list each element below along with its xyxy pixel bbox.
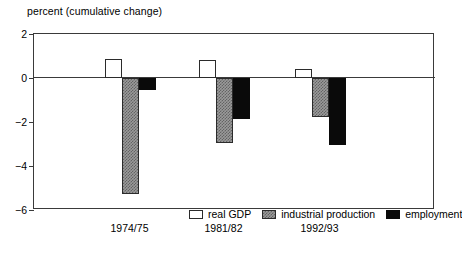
chart-title: percent (cumulative change) <box>27 5 162 17</box>
legend-item-employment: employment <box>386 208 462 220</box>
x-axis-tick-label: 1992/93 <box>301 222 339 234</box>
bar-employment <box>139 78 156 90</box>
x-axis-tick-label: 1974/75 <box>111 222 149 234</box>
y-axis-tick <box>29 34 34 35</box>
legend-label: employment <box>405 208 462 220</box>
bar-industrial-production <box>122 78 139 194</box>
bar-industrial-production <box>312 78 329 117</box>
y-axis-tick-label: 2 <box>21 29 27 40</box>
gray-square-swatch <box>262 210 276 219</box>
white-square-swatch <box>189 210 203 219</box>
bar-real-gdp <box>295 69 312 78</box>
bar-real-gdp <box>105 59 122 78</box>
bar-real-gdp <box>199 60 216 78</box>
plot-area: 20−2−4−6 real GDPindustrial productionem… <box>33 33 434 209</box>
y-axis-tick <box>29 166 34 167</box>
legend-item-industrial-production: industrial production <box>262 208 375 220</box>
y-axis-tick-label: −6 <box>15 205 27 216</box>
bar-employment <box>233 78 250 119</box>
chart-legend: real GDPindustrial productionemployment <box>189 208 462 220</box>
y-axis-tick-label: −4 <box>15 161 27 172</box>
y-axis-tick <box>29 122 34 123</box>
y-axis-tick-label: −2 <box>15 117 27 128</box>
x-axis-tick-label: 1981/82 <box>205 222 243 234</box>
legend-label: real GDP <box>208 208 251 220</box>
bar-employment <box>329 78 346 145</box>
y-axis-tick <box>29 78 34 79</box>
black-square-swatch <box>386 210 400 219</box>
legend-label: industrial production <box>281 208 375 220</box>
y-axis-tick-label: 0 <box>21 73 27 84</box>
bar-industrial-production <box>216 78 233 143</box>
y-axis-tick <box>29 210 34 211</box>
legend-item-real-gdp: real GDP <box>189 208 251 220</box>
